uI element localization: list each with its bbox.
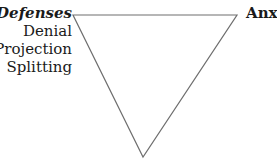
defenses-title: Defenses bbox=[0, 4, 72, 22]
inverted-triangle bbox=[73, 15, 237, 157]
anxiety-corner-label: Anxiety bbox=[246, 4, 277, 22]
defenses-corner-label: Defenses Denial Projection Splitting bbox=[0, 4, 72, 76]
defense-item-projection: Projection bbox=[0, 40, 72, 58]
defense-item-denial: Denial bbox=[0, 22, 72, 40]
defense-item-splitting: Splitting bbox=[0, 58, 72, 76]
